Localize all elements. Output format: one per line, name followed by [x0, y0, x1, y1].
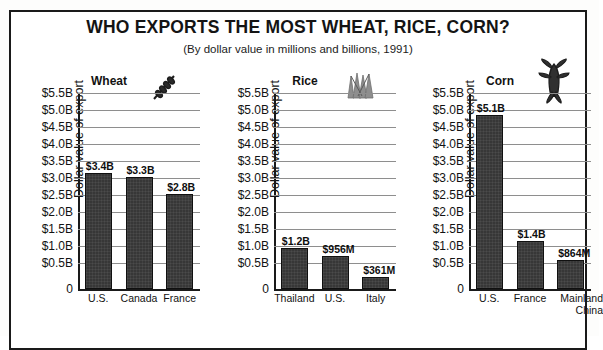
x-axis-line-rice [274, 289, 396, 291]
y-tick-label: $2.0B [433, 205, 464, 219]
y-tick-label: $1.5B [42, 222, 73, 236]
y-tick-label: $4.0B [238, 137, 269, 151]
y-tick-label: $2.0B [42, 205, 73, 219]
y-tick-label: $4.5B [42, 120, 73, 134]
gridline [274, 144, 396, 145]
y-axis-line-corn [469, 93, 471, 289]
gridline [274, 195, 396, 196]
gridline [274, 161, 396, 162]
y-tick-label: $3.0B [238, 171, 269, 185]
chart-panel-wheat: WheatDollar value of export$5.5B$5.0B$4.… [16, 74, 209, 324]
x-category-label: Italy [349, 293, 402, 305]
y-tick-label: $2.5B [42, 188, 73, 202]
y-tick-label: $4.5B [433, 120, 464, 134]
y-tick-label: $1.0B [433, 239, 464, 253]
bar-wheat-2 [166, 194, 193, 289]
bar-rice-2 [362, 277, 389, 289]
gridline [78, 93, 200, 94]
bar-value-label: $956M [323, 243, 355, 255]
gridline [274, 229, 396, 230]
x-category-label: MainlandChina [550, 293, 603, 316]
bar-corn-0 [476, 115, 503, 289]
y-tick-label: $5.0B [42, 103, 73, 117]
bar-value-label: $1.2B [282, 235, 310, 247]
bar-value-label: $3.4B [86, 160, 114, 172]
x-axis-line-corn [469, 289, 591, 291]
y-tick-label: $3.5B [42, 154, 73, 168]
y-tick-label: $2.5B [238, 188, 269, 202]
y-tick-label: $0.5B [433, 256, 464, 270]
y-tick-label: $3.0B [42, 171, 73, 185]
gridline [78, 144, 200, 145]
gridline [274, 127, 396, 128]
y-tick-label: $5.5B [433, 86, 464, 100]
y-tick-label: $4.0B [42, 137, 73, 151]
y-tick-label: $5.5B [42, 86, 73, 100]
gridline [274, 212, 396, 213]
gridline [274, 110, 396, 111]
gridline [274, 178, 396, 179]
x-axis-line-wheat [78, 289, 200, 291]
plot-area-corn: $5.5B$5.0B$4.5B$4.0B$3.5B$3.0B$2.5B$2.0B… [469, 93, 591, 289]
plot-area-wheat: $5.5B$5.0B$4.5B$4.0B$3.5B$3.0B$2.5B$2.0B… [78, 93, 200, 289]
bar-value-label: $5.1B [477, 102, 505, 114]
bar-value-label: $3.3B [127, 164, 155, 176]
x-category-label: France [504, 293, 557, 305]
y-tick-label: $1.0B [42, 239, 73, 253]
y-tick-label: $0.5B [42, 256, 73, 270]
y-tick-label: $0.5B [238, 256, 269, 270]
bar-rice-0 [281, 248, 308, 289]
y-tick-label: $1.0B [238, 239, 269, 253]
chart-panel-rice: RiceDollar value of export$5.5B$5.0B$4.5… [212, 74, 405, 324]
bar-value-label: $1.4B [518, 228, 546, 240]
y-tick-label: $3.5B [433, 154, 464, 168]
bar-wheat-0 [85, 173, 112, 289]
y-axis-line-rice [274, 93, 276, 289]
bar-rice-1 [322, 256, 349, 289]
y-tick-label: $1.5B [238, 222, 269, 236]
gridline [469, 93, 591, 94]
y-tick-label: $3.0B [433, 171, 464, 185]
y-tick-label: $3.5B [238, 154, 269, 168]
y-tick-label: $1.5B [433, 222, 464, 236]
bar-value-label: $2.8B [167, 181, 195, 193]
chart-subtitle: (By dollar value in millions and billion… [9, 43, 587, 55]
y-tick-label: $2.5B [433, 188, 464, 202]
plot-area-rice: $5.5B$5.0B$4.5B$4.0B$3.5B$3.0B$2.5B$2.0B… [274, 93, 396, 289]
bar-value-label: $361M [363, 264, 395, 276]
bar-corn-1 [517, 241, 544, 289]
chart-panel-corn: CornDollar value of export$5.5B$5.0B$4.5… [407, 74, 600, 324]
gridline [78, 110, 200, 111]
y-tick-label: $5.0B [433, 103, 464, 117]
y-axis-line-wheat [78, 93, 80, 289]
x-category-label: France [153, 293, 206, 305]
y-tick-label: $5.5B [238, 86, 269, 100]
y-tick-label: $2.0B [238, 205, 269, 219]
gridline [274, 93, 396, 94]
bar-value-label: $864M [558, 247, 590, 259]
chart-title: WHO EXPORTS THE MOST WHEAT, RICE, CORN? [9, 17, 587, 38]
y-tick-label: $5.0B [238, 103, 269, 117]
bar-corn-2 [557, 260, 584, 289]
y-tick-label: $4.5B [238, 120, 269, 134]
y-tick-label: $4.0B [433, 137, 464, 151]
bar-wheat-1 [126, 177, 153, 289]
gridline [78, 127, 200, 128]
